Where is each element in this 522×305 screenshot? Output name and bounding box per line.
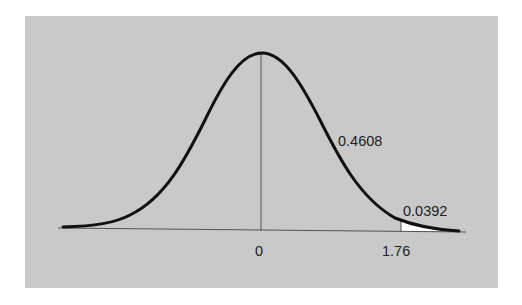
area-tail-label: 0.0392	[403, 204, 447, 219]
area-center-label: 0.4608	[338, 134, 382, 149]
tick-label-zero: 0	[255, 244, 263, 259]
tick-label-z: 1.76	[382, 244, 410, 259]
normal-curve-plot	[0, 0, 522, 305]
